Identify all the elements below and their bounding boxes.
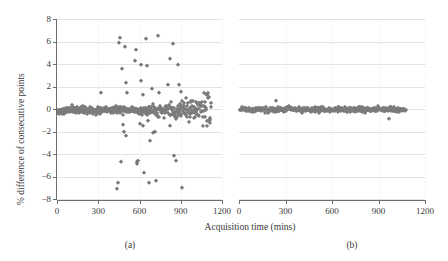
x-tick: [332, 200, 333, 204]
figure-scatter-acquisition-drift: % difference of consecutive points −8−6−…: [0, 0, 448, 261]
data-point: [386, 116, 391, 121]
x-tick-label: 1200: [405, 207, 445, 216]
x-tick: [379, 200, 380, 204]
x-tick: [239, 200, 240, 204]
x-tick: [286, 200, 287, 204]
panel-b-data-points: [239, 19, 425, 199]
x-axis-label: Acquisition time (mins): [180, 222, 320, 232]
x-tick-label: 0: [219, 207, 259, 216]
x-tick: [425, 200, 426, 204]
data-point: [274, 98, 279, 103]
x-tick-label: 300: [266, 207, 306, 216]
panel-b-caption: (b): [322, 240, 382, 250]
x-tick-label: 600: [312, 207, 352, 216]
x-tick-label: 900: [359, 207, 399, 216]
gridline-vertical: [425, 19, 426, 199]
